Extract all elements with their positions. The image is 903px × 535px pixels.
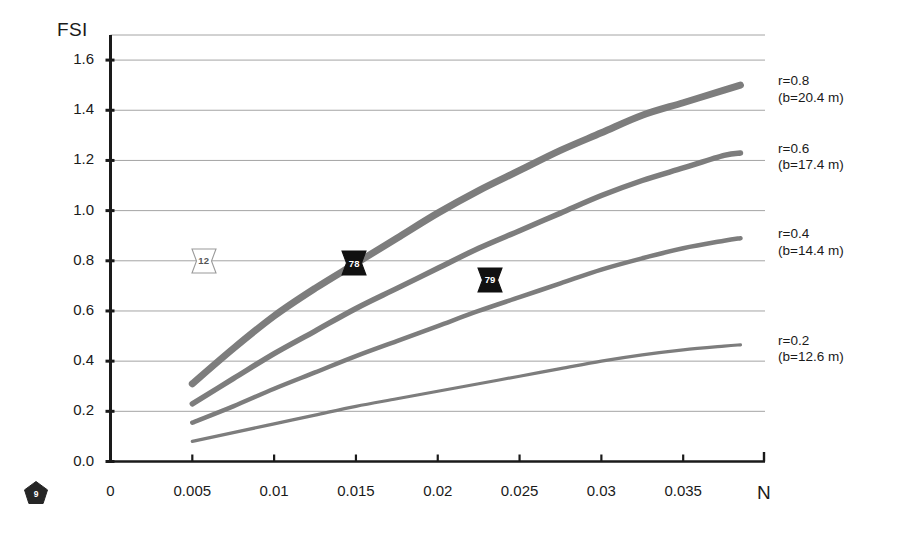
curve-group — [192, 85, 740, 441]
series-label-r: r=0.4 — [778, 226, 844, 243]
series-label-r: r=0.2 — [778, 333, 844, 350]
annotation-marker-78: 78 — [339, 250, 369, 276]
series-label-r0.4: r=0.4(b=14.4 m) — [778, 226, 844, 259]
annotation-marker-text: 12 — [189, 248, 219, 274]
curve-r0.8 — [192, 85, 740, 384]
x-tick-label: 0.005 — [157, 482, 227, 499]
plot-area — [0, 0, 903, 535]
curve-r0.6 — [192, 153, 740, 404]
curve-r0.2 — [192, 345, 740, 442]
y-tick-label: 0.4 — [38, 351, 94, 368]
chart-figure: FSI N 0.00.20.40.60.81.01.21.41.6 00.005… — [0, 0, 903, 535]
curve-r0.4 — [192, 238, 740, 422]
y-tick-label: 0.6 — [38, 301, 94, 318]
page-number-badge: 9 — [24, 481, 48, 504]
annotation-marker-text: 79 — [475, 267, 505, 293]
x-tick-label: 0.02 — [403, 482, 473, 499]
page-number-text: 9 — [24, 484, 48, 504]
series-label-r0.8: r=0.8(b=20.4 m) — [778, 73, 844, 106]
y-tick-label: 1.6 — [38, 50, 94, 67]
annotation-marker-12: 12 — [189, 248, 219, 274]
y-tick-label: 1.4 — [38, 100, 94, 117]
series-label-b: (b=14.4 m) — [778, 243, 844, 260]
y-tick-label: 0.0 — [38, 452, 94, 469]
x-tick-label: 0.025 — [485, 482, 555, 499]
y-tick-label: 0.2 — [38, 401, 94, 418]
series-label-b: (b=12.6 m) — [778, 349, 844, 366]
y-tick-label: 1.2 — [38, 150, 94, 167]
series-label-b: (b=17.4 m) — [778, 157, 844, 174]
annotation-marker-79: 79 — [475, 267, 505, 293]
y-axis-title: FSI — [57, 19, 87, 41]
y-tick-label: 0.8 — [38, 251, 94, 268]
series-label-b: (b=20.4 m) — [778, 90, 844, 107]
x-tick-label: 0 — [76, 482, 146, 499]
x-tick-label: 0.035 — [648, 482, 718, 499]
annotation-marker-text: 78 — [339, 250, 369, 276]
series-label-r: r=0.6 — [778, 141, 844, 158]
x-tick-label: 0.03 — [566, 482, 636, 499]
series-label-r: r=0.8 — [778, 73, 844, 90]
x-tick-label: 0.01 — [239, 482, 309, 499]
series-label-r0.6: r=0.6(b=17.4 m) — [778, 141, 844, 174]
x-axis-title: N — [757, 482, 771, 504]
x-tick-label: 0.015 — [321, 482, 391, 499]
y-tick-label: 1.0 — [38, 201, 94, 218]
series-label-r0.2: r=0.2(b=12.6 m) — [778, 333, 844, 366]
